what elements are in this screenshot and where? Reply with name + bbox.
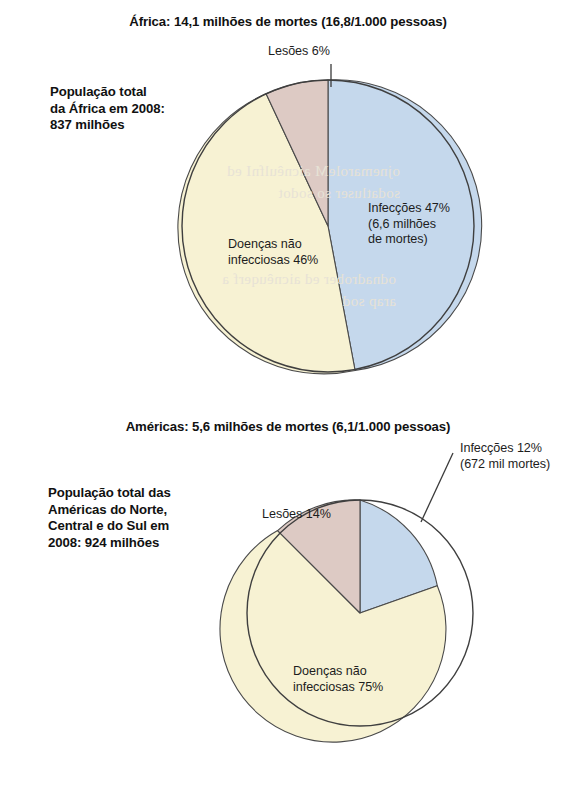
slice-label-line: (6,6 milhões: [368, 217, 450, 233]
slice-label-line: infecciosas 75%: [293, 680, 383, 696]
side-note-line: População total das: [48, 485, 171, 502]
callout-line: (672 mil mortes): [460, 457, 550, 473]
chart-figure-americas: Américas: 5,6 milhões de mortes (6,1/1.0…: [0, 400, 576, 787]
side-note-line: População total: [50, 84, 165, 101]
chart-title-africa: África: 14,1 milhões de mortes (16,8/1.0…: [0, 14, 576, 29]
callout-lesoes-africa: Lesões 6%: [268, 44, 330, 60]
slice-label-doencas-americas: Doenças não infecciosas 75%: [293, 664, 383, 695]
side-note-line: 837 milhões: [50, 117, 165, 134]
callout-line: Infecções 12%: [460, 441, 550, 457]
side-note-americas: População total das Américas do Norte, C…: [48, 485, 171, 551]
slice-label-doencas-africa: Doenças não infecciosas 46%: [228, 237, 318, 268]
side-note-line: 2008: 924 milhões: [48, 535, 171, 552]
side-note-line: Américas do Norte,: [48, 502, 171, 519]
callout-line: Lesões 6%: [268, 44, 330, 60]
side-note-line: Central e do Sul em: [48, 518, 171, 535]
callout-infeccoes-americas: Infecções 12% (672 mil mortes): [460, 441, 550, 472]
side-note-africa: População total da África em 2008: 837 m…: [50, 84, 165, 134]
slice-label-line: Doenças não: [293, 664, 383, 680]
pie-chart-americas: [240, 492, 490, 742]
chart-title-americas: Américas: 5,6 milhões de mortes (6,1/1.0…: [0, 419, 576, 434]
chart-figure-africa: África: 14,1 milhões de mortes (16,8/1.0…: [0, 0, 576, 400]
pie-chart-africa: [178, 68, 498, 388]
leader-line-infeccoes-americas: [421, 453, 453, 522]
side-note-line: da África em 2008:: [50, 101, 165, 118]
slice-label-infeccoes-africa: Infecções 47% (6,6 milhões de mortes): [368, 201, 450, 248]
slice-label-line: infecciosas 46%: [228, 253, 318, 269]
slice-label-line: Doenças não: [228, 237, 318, 253]
slice-label-lesoes-americas: Lesões 14%: [262, 507, 331, 523]
slice-label-line: de mortes): [368, 232, 450, 248]
slice-label-line: Infecções 47%: [368, 201, 450, 217]
slice-label-line: Lesões 14%: [262, 507, 331, 523]
